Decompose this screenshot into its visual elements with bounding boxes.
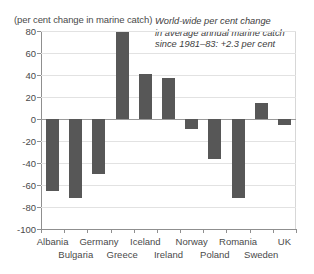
bar-series xyxy=(41,31,296,229)
bar-ireland[interactable] xyxy=(162,78,175,119)
x-tick-mark-9 xyxy=(250,229,251,233)
bar-germany[interactable] xyxy=(92,119,105,174)
x-label-albania: Albania xyxy=(37,236,69,247)
x-tick-mark-8 xyxy=(226,229,227,233)
y-tick-label--20: -20 xyxy=(22,136,36,147)
x-tick-mark-2 xyxy=(87,229,88,233)
bar-albania[interactable] xyxy=(46,119,59,191)
x-label-greece: Greece xyxy=(107,249,138,260)
x-tick-mark-7 xyxy=(203,229,204,233)
x-label-uk: UK xyxy=(278,236,291,247)
bar-romania[interactable] xyxy=(232,119,245,198)
y-tick-label--40: -40 xyxy=(22,158,36,169)
x-label-sweden: Sweden xyxy=(244,249,278,260)
x-label-poland: Poland xyxy=(200,249,230,260)
marine-catch-bar-chart: (per cent change in marine catch) World-… xyxy=(0,0,314,274)
x-tick-mark-0 xyxy=(41,229,42,233)
y-tick-label-60: 60 xyxy=(25,48,36,59)
x-label-iceland: Iceland xyxy=(130,236,161,247)
x-axis-labels: AlbaniaBulgariaGermanyGreeceIcelandIrela… xyxy=(41,236,296,272)
x-label-norway: Norway xyxy=(176,236,208,247)
x-tick-mark-4 xyxy=(134,229,135,233)
y-tick-label--100: -100 xyxy=(17,224,36,235)
bar-norway[interactable] xyxy=(185,119,198,129)
x-tick-mark-11 xyxy=(296,229,297,233)
y-tick-label-0: 0 xyxy=(31,114,36,125)
y-tick-label-40: 40 xyxy=(25,70,36,81)
x-label-germany: Germany xyxy=(79,236,118,247)
gridline--100 xyxy=(41,229,296,230)
x-label-romania: Romania xyxy=(219,236,257,247)
x-tick-mark-5 xyxy=(157,229,158,233)
y-tick-label-80: 80 xyxy=(25,26,36,37)
x-label-bulgaria: Bulgaria xyxy=(58,249,93,260)
x-label-ireland: Ireland xyxy=(154,249,183,260)
bar-greece[interactable] xyxy=(116,32,129,119)
bar-iceland[interactable] xyxy=(139,74,152,119)
y-tick-label--60: -60 xyxy=(22,180,36,191)
bar-uk[interactable] xyxy=(278,119,291,125)
bar-bulgaria[interactable] xyxy=(69,119,82,198)
x-tick-mark-6 xyxy=(180,229,181,233)
y-tick-label--80: -80 xyxy=(22,202,36,213)
x-tick-mark-1 xyxy=(64,229,65,233)
bar-sweden[interactable] xyxy=(255,103,268,120)
bar-poland[interactable] xyxy=(208,119,221,159)
annotation-line-1: World-wide per cent change xyxy=(155,16,285,28)
x-tick-mark-10 xyxy=(273,229,274,233)
y-axis-unit-caption: (per cent change in marine catch) xyxy=(14,14,152,25)
x-tick-mark-3 xyxy=(111,229,112,233)
plot-area xyxy=(41,31,296,229)
y-tick-label-20: 20 xyxy=(25,92,36,103)
